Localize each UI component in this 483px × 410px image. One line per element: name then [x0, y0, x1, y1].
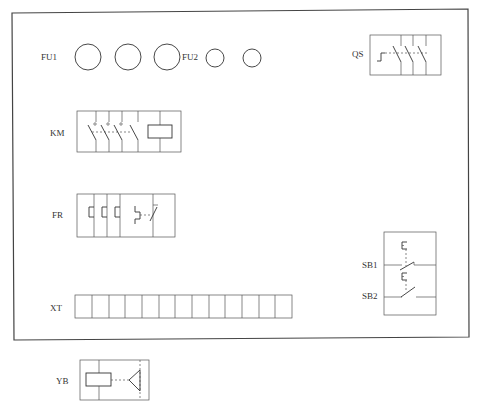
- xt-label: XT: [50, 303, 62, 313]
- km-contactor: [77, 111, 181, 152]
- fr-overload-relay: [77, 194, 175, 237]
- fu1-fuses: [75, 44, 180, 70]
- qs-label: QS: [352, 49, 364, 59]
- fu2-fuses: [206, 49, 261, 67]
- fuse-icon: [243, 49, 261, 67]
- qs-switch: [370, 35, 441, 75]
- fr-label: FR: [52, 210, 63, 220]
- panel-layout-diagram: FU1 FU2 QS KM: [0, 0, 483, 410]
- yb-label: YB: [56, 376, 69, 386]
- fuse-icon: [154, 44, 180, 70]
- sb2-label: SB2: [362, 291, 378, 301]
- yb-brake: [80, 360, 149, 400]
- fu2-label: FU2: [182, 52, 198, 62]
- sb1-label: SB1: [362, 260, 378, 270]
- km-label: KM: [50, 128, 65, 138]
- fuse-icon: [115, 44, 141, 70]
- fuse-icon: [75, 44, 101, 70]
- xt-terminal-block: [75, 295, 292, 318]
- panel-frame: [12, 9, 469, 340]
- fuse-icon: [206, 49, 224, 67]
- sb-pushbuttons: [384, 232, 436, 315]
- fu1-label: FU1: [41, 52, 57, 62]
